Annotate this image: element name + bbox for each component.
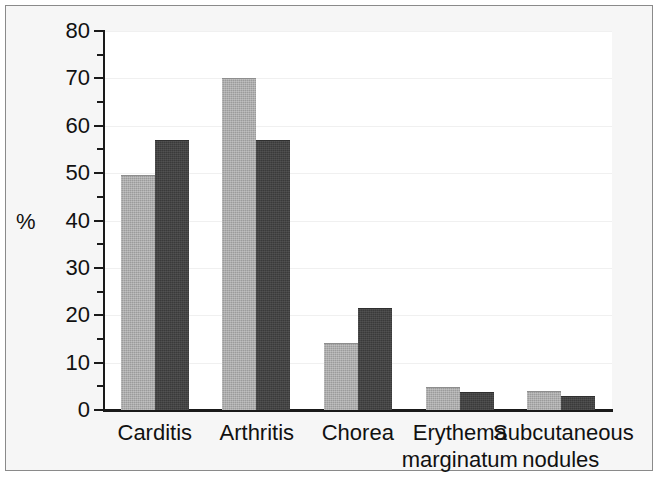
y-tick-major xyxy=(94,172,104,174)
gridline xyxy=(104,126,612,127)
bar xyxy=(358,308,392,410)
y-tick-major xyxy=(94,125,104,127)
y-tick-major xyxy=(94,314,104,316)
gridline xyxy=(104,31,612,32)
bar xyxy=(460,392,494,410)
bar xyxy=(256,140,290,410)
y-tick-label: 60 xyxy=(42,115,90,137)
bar xyxy=(324,343,358,410)
y-tick-minor xyxy=(97,291,104,293)
y-axis-label: % xyxy=(16,209,36,235)
bar xyxy=(155,140,189,410)
y-tick-major xyxy=(94,77,104,79)
y-tick-label: 0 xyxy=(42,399,90,421)
y-tick-minor xyxy=(97,101,104,103)
y-tick-minor xyxy=(97,54,104,56)
y-tick-label: 40 xyxy=(42,210,90,232)
bar xyxy=(222,78,256,410)
y-tick-major xyxy=(94,409,104,411)
y-tick-label: 30 xyxy=(42,257,90,279)
y-tick-minor xyxy=(97,385,104,387)
y-tick-major xyxy=(94,362,104,364)
y-tick-major xyxy=(94,30,104,32)
y-tick-major xyxy=(94,267,104,269)
y-tick-major xyxy=(94,220,104,222)
gridline xyxy=(104,78,612,79)
y-tick-minor xyxy=(97,338,104,340)
bar xyxy=(121,175,155,410)
y-tick-label: 80 xyxy=(42,20,90,42)
bar xyxy=(426,387,460,410)
x-axis-category-label: Subcutaneous nodules xyxy=(493,420,629,474)
y-tick-minor xyxy=(97,243,104,245)
y-tick-label: 20 xyxy=(42,304,90,326)
y-tick-label: 70 xyxy=(42,67,90,89)
y-tick-label: 50 xyxy=(42,162,90,184)
y-tick-label: 10 xyxy=(42,352,90,374)
y-tick-minor xyxy=(97,196,104,198)
y-tick-minor xyxy=(97,148,104,150)
chart-figure: 01020304050607080 % CarditisArthritisCho… xyxy=(5,5,653,471)
bar xyxy=(527,391,561,410)
bar xyxy=(561,396,595,410)
